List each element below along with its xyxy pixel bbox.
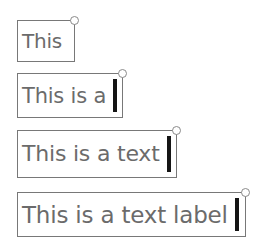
- resize-handle-icon[interactable]: [241, 188, 250, 197]
- text-label-value: This is a text label: [22, 203, 228, 226]
- resize-handle-icon[interactable]: [118, 69, 127, 78]
- text-label-box[interactable]: This is a: [17, 73, 123, 118]
- illustration-canvas: This This is a This is a text This is a …: [0, 0, 263, 249]
- text-label-box[interactable]: This: [17, 20, 75, 62]
- text-label-value: This: [22, 31, 62, 51]
- text-caret: [167, 136, 171, 172]
- text-label-box[interactable]: This is a text label: [17, 192, 246, 237]
- text-caret: [235, 198, 239, 231]
- resize-handle-icon[interactable]: [70, 16, 79, 25]
- text-label-value: This is a text: [22, 143, 160, 165]
- resize-handle-icon[interactable]: [172, 126, 181, 135]
- text-caret: [113, 79, 117, 112]
- text-label-box[interactable]: This is a text: [17, 130, 177, 178]
- text-label-value: This is a: [22, 85, 106, 106]
